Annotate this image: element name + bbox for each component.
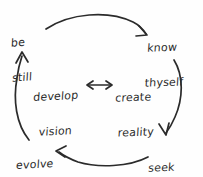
- node-be-still: be still: [8, 13, 36, 107]
- node-create-reality: create reality: [111, 68, 159, 162]
- node-know-thyself-line1: know: [147, 41, 186, 54]
- node-develop-vision-line1: develop: [33, 90, 79, 104]
- node-create-reality-line1: create: [115, 91, 157, 104]
- node-develop-vision: develop vision: [29, 67, 81, 162]
- node-develop-vision-line2: vision: [38, 124, 76, 138]
- node-be-still-line1: be: [11, 36, 35, 49]
- node-create-reality-line2: reality: [117, 126, 154, 139]
- arrow-be-still-to-know-thyself: [46, 15, 147, 36]
- arrow-develop-vision-create-reality: [87, 81, 112, 89]
- sketch-diagram: be still know thyself seek support evolv…: [0, 0, 203, 177]
- node-be-still-line2: still: [12, 71, 33, 84]
- node-seek-support-line1: seek: [148, 161, 191, 174]
